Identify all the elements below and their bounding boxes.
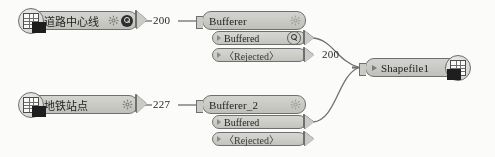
node-writer-shapefile[interactable]: Shapefile1 — [365, 58, 460, 77]
port-buffered[interactable]: Buffered — [212, 31, 306, 45]
dataset-table-icon[interactable] — [445, 55, 471, 81]
bufferer2-title: Bufferer_2 — [209, 99, 287, 111]
reader-metro-title: 地铁站点 — [44, 97, 119, 113]
diagram-canvas[interactable]: 道路中心线 — [0, 0, 495, 157]
wire-label-buffered-count: 200 — [322, 48, 339, 60]
scan-bleed-artifact — [338, 4, 342, 19]
port-rejected-label: 〈Rejected〉 — [224, 132, 301, 147]
dataset-table-icon[interactable] — [18, 8, 44, 34]
bufferer2-input-nub[interactable] — [196, 100, 203, 113]
expand-triangle-icon[interactable] — [372, 65, 377, 71]
gear-icon[interactable] — [290, 99, 301, 110]
node-reader-metro[interactable]: 地铁站点 — [28, 95, 138, 114]
node-reader-road[interactable]: 道路中心线 — [28, 11, 138, 30]
magnifier-icon[interactable] — [287, 31, 301, 45]
node-bufferer-1[interactable]: Bufferer Buffered — [202, 11, 306, 30]
port-rejected[interactable]: 〈Rejected〉 — [212, 48, 306, 62]
port-buffered-label: Buffered — [224, 33, 285, 44]
magnifier-icon[interactable] — [121, 15, 133, 27]
wire-buffered2 — [313, 68, 358, 122]
wire-label-road-count: 200 — [153, 14, 170, 26]
shapefile-input-nub[interactable] — [359, 63, 366, 76]
bufferer2-bar[interactable]: Bufferer_2 — [202, 95, 306, 114]
port-buffered-output-nub[interactable] — [305, 115, 314, 129]
port-buffered[interactable]: Buffered — [212, 115, 306, 129]
bufferer1-bar[interactable]: Bufferer — [202, 11, 306, 30]
shapefile-title: Shapefile1 — [381, 62, 441, 74]
bufferer1-ports: Buffered 〈Rejected〉 — [212, 31, 306, 65]
port-rejected-label: 〈Rejected〉 — [224, 48, 301, 63]
bufferer1-input-nub[interactable] — [196, 16, 203, 29]
port-triangle-icon — [217, 136, 221, 142]
reader-metro-output-nub[interactable] — [137, 95, 147, 113]
port-rejected-output-nub[interactable] — [305, 48, 314, 62]
port-rejected-output-nub[interactable] — [305, 132, 314, 146]
gear-icon[interactable] — [290, 15, 301, 26]
gear-icon[interactable] — [108, 15, 119, 26]
bufferer2-ports: Buffered 〈Rejected〉 — [212, 115, 306, 149]
gear-icon[interactable] — [122, 99, 133, 110]
dataset-arrow-glyph — [447, 69, 461, 80]
port-triangle-icon — [217, 52, 221, 58]
node-bufferer-2[interactable]: Bufferer_2 Buffered — [202, 95, 306, 114]
dataset-arrow-glyph — [32, 106, 46, 117]
reader-road-title: 道路中心线 — [44, 13, 105, 29]
reader-road-output-nub[interactable] — [137, 11, 147, 29]
port-buffered-label: Buffered — [224, 117, 301, 128]
dataset-arrow-glyph — [32, 22, 46, 33]
port-buffered-output-nub[interactable] — [305, 31, 314, 45]
port-rejected[interactable]: 〈Rejected〉 — [212, 132, 306, 146]
wire-label-metro-count: 227 — [153, 98, 170, 110]
port-triangle-icon — [217, 35, 221, 41]
port-triangle-icon — [217, 119, 221, 125]
bufferer1-title: Bufferer — [209, 15, 287, 27]
dataset-table-icon[interactable] — [18, 92, 44, 118]
